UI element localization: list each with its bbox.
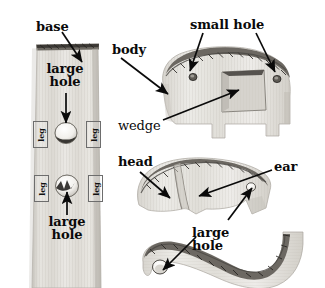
part-head [137,158,270,214]
leg-box-2: leg [86,121,101,148]
body-small-hole-left [189,73,197,80]
label-large-hole-top: large hole [32,62,98,89]
leg-box-3: leg [34,175,49,202]
body-small-hole-right [273,75,281,82]
label-large-hole-base-bottom-text: large hole [48,214,85,242]
arrow-body [121,58,168,94]
leg-box-2-label: leg [89,128,99,142]
leg-box-1: leg [33,121,48,148]
leg-box-4: leg [88,175,103,202]
body-wedge [222,70,266,112]
leg-box-3-label: leg [37,182,47,196]
figure-canvas: base large hole large hole body small ho… [0,0,325,288]
parts-artwork [0,0,325,288]
label-large-hole-base-bottom: large hole [32,215,102,242]
label-wedge: wedge [118,119,161,132]
label-head: head [118,155,153,168]
label-base: base [36,20,69,33]
label-large-hole-trunk: large hole [192,226,258,253]
label-small-hole: small hole [190,18,264,31]
leg-box-1-label: leg [36,128,46,142]
part-body [163,47,291,138]
leg-box-4-label: leg [91,182,101,196]
label-ear: ear [274,160,297,173]
label-large-hole-trunk-text: large hole [192,225,229,253]
label-large-hole-top-text: large hole [46,61,83,89]
base-large-hole-1 [55,123,77,144]
label-body: body [112,43,146,56]
